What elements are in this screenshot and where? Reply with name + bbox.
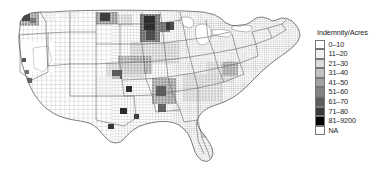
legend-label-21-30: 21–30 bbox=[329, 59, 349, 69]
legend-label-71-80: 71–80 bbox=[329, 107, 349, 117]
legend-item[interactable]: 41–50 bbox=[315, 78, 386, 88]
legend-item[interactable]: 31–40 bbox=[315, 68, 386, 78]
legend-swatch-61-70 bbox=[315, 97, 325, 107]
us-county-choropleth-map[interactable] bbox=[0, 0, 310, 177]
legend-item[interactable]: 81–9200 bbox=[315, 116, 386, 126]
legend-label-11-20: 11–20 bbox=[329, 49, 348, 59]
legend-swatch-81-9200 bbox=[315, 116, 325, 126]
legend-label-51-60: 51–60 bbox=[329, 87, 349, 97]
map-svg bbox=[0, 0, 310, 177]
map-legend: Indemnity/Acres 0–10 11–20 21–30 31–40 4… bbox=[315, 28, 386, 135]
legend-label-na: NA bbox=[329, 126, 339, 136]
legend-item[interactable]: 51–60 bbox=[315, 87, 386, 97]
legend-label-41-50: 41–50 bbox=[329, 78, 349, 88]
legend-swatch-na bbox=[315, 126, 325, 136]
legend-swatch-0-10 bbox=[315, 40, 325, 50]
legend-label-61-70: 61–70 bbox=[329, 97, 349, 107]
legend-title: Indemnity/Acres bbox=[317, 28, 386, 37]
legend-item[interactable]: 0–10 bbox=[315, 40, 386, 50]
legend-label-31-40: 31–40 bbox=[329, 68, 349, 78]
legend-swatch-11-20 bbox=[315, 49, 325, 59]
choropleth-figure: Indemnity/Acres 0–10 11–20 21–30 31–40 4… bbox=[0, 0, 386, 177]
legend-swatch-71-80 bbox=[315, 107, 325, 117]
legend-item[interactable]: 61–70 bbox=[315, 97, 386, 107]
legend-swatch-31-40 bbox=[315, 68, 325, 78]
legend-item[interactable]: 71–80 bbox=[315, 107, 386, 117]
legend-swatch-41-50 bbox=[315, 78, 325, 88]
legend-swatch-51-60 bbox=[315, 87, 325, 97]
legend-swatch-21-30 bbox=[315, 59, 325, 69]
legend-label-81-9200: 81–9200 bbox=[329, 116, 356, 126]
legend-label-0-10: 0–10 bbox=[329, 40, 345, 50]
legend-item[interactable]: 11–20 bbox=[315, 49, 386, 59]
legend-item[interactable]: NA bbox=[315, 126, 386, 136]
legend-item[interactable]: 21–30 bbox=[315, 59, 386, 69]
